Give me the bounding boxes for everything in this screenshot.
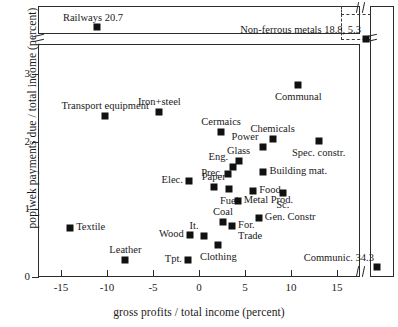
x-tick-5	[245, 270, 246, 277]
y-tick-label-0: 0	[14, 270, 30, 282]
x-tick-label--15: -15	[44, 281, 78, 293]
data-point	[185, 178, 192, 185]
data-point	[250, 187, 257, 194]
data-point	[363, 36, 370, 43]
data-point	[215, 241, 222, 248]
data-point-label: Non-ferrous metals 18.8, 5.3	[240, 24, 361, 35]
data-point-label: Communic. 34.3	[304, 252, 374, 263]
x-tick--5	[153, 270, 154, 277]
data-point	[122, 257, 129, 264]
data-point	[225, 171, 232, 178]
data-point	[315, 137, 322, 144]
x-tick--10	[107, 270, 108, 277]
data-point-label: Coal	[213, 206, 233, 217]
x-tick-label--10: -10	[90, 281, 124, 293]
y-tick-1	[32, 209, 39, 210]
data-point-label: Metal Prod.	[244, 194, 294, 205]
x-tick-label-0: 0	[182, 281, 216, 293]
data-point	[260, 169, 267, 176]
data-point	[210, 183, 217, 190]
x-tick-10	[291, 270, 292, 277]
data-point-label: Spec. constr.	[292, 147, 345, 158]
plot-frame	[38, 44, 360, 277]
data-point	[230, 163, 237, 170]
data-point	[295, 81, 302, 88]
data-point	[255, 214, 262, 221]
y-tick-label-2: 2	[14, 135, 30, 147]
data-point-label: Eng.	[208, 151, 228, 162]
x-tick--15	[61, 270, 62, 277]
data-point-label: For.	[238, 219, 255, 230]
data-point-label: Food	[259, 184, 281, 195]
data-point	[260, 144, 267, 151]
data-point	[234, 198, 241, 205]
x-tick-label--5: -5	[136, 281, 170, 293]
scatter-chart: popiwek payments due / total income (per…	[0, 0, 398, 327]
data-point-label: Transport equipment	[61, 100, 148, 111]
data-point-label: Railways 20.7	[63, 12, 123, 23]
offscale-dash-line	[341, 6, 342, 16]
data-point-label: Elec.	[162, 174, 183, 185]
x-top-break-mark-right	[362, 2, 365, 13]
data-point-label: Cermaics	[201, 116, 241, 127]
data-point	[186, 232, 193, 239]
x-tick-label-15: 15	[320, 281, 354, 293]
y-tick-3	[32, 74, 39, 75]
data-point-label: Tpt.	[165, 253, 182, 264]
data-point-label: Paper	[202, 171, 226, 182]
data-point	[156, 108, 163, 115]
x-axis-title: gross profits / total income (percent)	[0, 306, 398, 318]
data-point	[184, 257, 191, 264]
data-point	[94, 24, 101, 31]
data-point	[200, 233, 207, 240]
x-axis-break-mark-right	[362, 266, 365, 277]
data-point	[67, 225, 74, 232]
data-point-label: Trade	[238, 230, 262, 241]
y-tick-0	[32, 277, 39, 278]
data-point-label: Textile	[76, 221, 105, 232]
x-tick-label-10: 10	[274, 281, 308, 293]
data-point-label: Gen. Constr	[265, 211, 316, 222]
x-tick-15	[337, 270, 338, 277]
y-tick-2	[32, 142, 39, 143]
data-point	[374, 264, 381, 271]
data-point	[226, 186, 233, 193]
y-tick-label-1: 1	[14, 202, 30, 214]
x-tick-0	[199, 270, 200, 277]
data-point-label: Iron+steel	[138, 96, 181, 107]
data-point	[218, 128, 225, 135]
data-point	[102, 113, 109, 120]
data-point	[219, 218, 226, 225]
data-point-label: Communal	[275, 91, 322, 102]
x-tick-label-5: 5	[228, 281, 262, 293]
right-break-band	[370, 6, 394, 277]
data-point	[269, 135, 276, 142]
data-point-label: It.	[190, 220, 199, 231]
data-point-label: Power	[232, 131, 259, 142]
data-point-label: Leather	[109, 244, 141, 255]
data-point-label: Wood	[159, 228, 184, 239]
data-point-label: Building mat.	[269, 165, 327, 176]
y-tick-label-3: 3	[14, 67, 30, 79]
data-point-label: Glass	[227, 145, 250, 156]
data-point-label: Clothing	[200, 251, 237, 262]
data-point	[229, 223, 236, 230]
